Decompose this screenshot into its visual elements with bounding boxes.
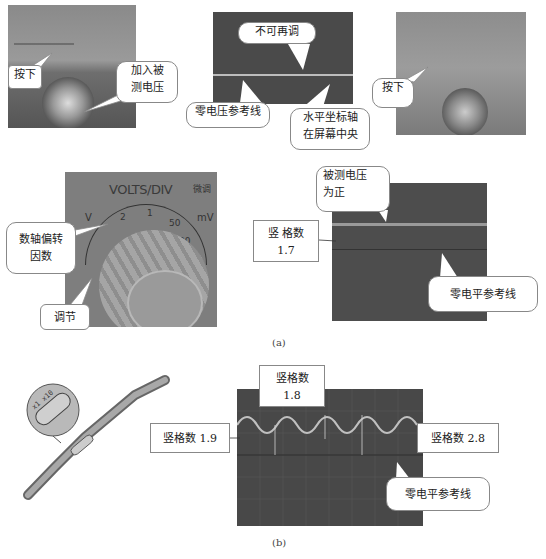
callout-positive-voltage: 被测电压 为正 — [316, 166, 390, 212]
callout-deflection-factor: 数轴偏转 因数 — [6, 222, 76, 274]
callout-horizontal-axis: 水平坐标轴 在屏幕中央 — [290, 108, 370, 150]
callout-zero-voltage-ref: 零电压参考线 — [186, 102, 270, 128]
callout-press-2: 按下 — [372, 78, 414, 108]
label-divisions-1-8: 竖格数 1.8 — [259, 365, 325, 407]
label-divisions-2-8: 竖格数 2.8 — [417, 423, 499, 453]
callout-add-voltage: 加入被 测电压 — [116, 61, 178, 103]
callout-zero-level-ref-b: 零电平参考线 — [386, 477, 490, 511]
callout-press-1: 按下 — [8, 65, 42, 89]
callout-zero-level-ref-a: 零电平参考线 — [428, 276, 538, 312]
callout-no-adjust: 不可再调 — [238, 22, 316, 44]
label-divisions-1-7: 竖 格数 1.7 — [253, 220, 319, 262]
callout-adjust: 调节 — [40, 304, 90, 330]
label-divisions-1-9: 竖格数 1.9 — [150, 423, 230, 453]
